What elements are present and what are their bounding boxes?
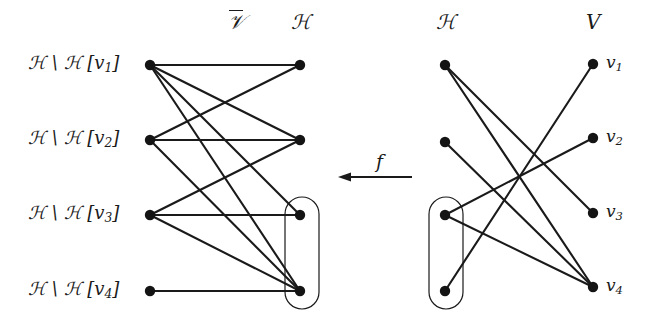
graph-node[interactable]: [588, 208, 598, 218]
graph-node[interactable]: [440, 60, 450, 70]
graph-node[interactable]: [295, 135, 305, 145]
graph-node[interactable]: [588, 282, 598, 292]
graph-edge: [445, 215, 593, 287]
graph-node[interactable]: [145, 210, 155, 220]
set-label-L3: ℋ \ ℋ [v3]: [28, 204, 119, 224]
header-right-graph-v: V: [586, 12, 600, 32]
set-label-L4: ℋ \ ℋ [v4]: [28, 280, 119, 300]
grouping-ovals-layer: [285, 197, 463, 309]
graph-node[interactable]: [145, 286, 155, 296]
mapping-arrow-label: f: [376, 152, 383, 171]
graph-node[interactable]: [440, 210, 450, 220]
graph-node[interactable]: [145, 135, 155, 145]
header-left-graph-vbar: 𝒱: [228, 12, 245, 32]
header-right-graph-h: ℋ: [436, 12, 456, 32]
graph-edge: [445, 65, 593, 213]
bipartite-graph-figure: 𝒱 ℋ ℋ V ℋ \ ℋ [v1]ℋ \ ℋ [v2]ℋ \ ℋ [v3]ℋ …: [0, 0, 662, 325]
graph-node[interactable]: [145, 60, 155, 70]
graph-edge: [150, 215, 300, 291]
graph-node[interactable]: [295, 210, 305, 220]
graph-node[interactable]: [295, 60, 305, 70]
graph-edge: [445, 142, 593, 287]
graph-node[interactable]: [295, 286, 305, 296]
graph-node[interactable]: [588, 133, 598, 143]
set-label-L1: ℋ \ ℋ [v1]: [28, 54, 119, 74]
graph-edge: [150, 140, 300, 215]
header-left-graph-h: ℋ: [291, 12, 311, 32]
graph-node[interactable]: [588, 59, 598, 69]
vertex-label-V3: v3: [606, 203, 623, 222]
vertex-label-V4: v4: [606, 277, 623, 296]
graph-node[interactable]: [440, 286, 450, 296]
mapping-arrow-layer: [338, 172, 412, 181]
graph-node[interactable]: [440, 137, 450, 147]
mapping-arrow-head: [338, 172, 351, 181]
vertex-label-V2: v2: [606, 128, 623, 147]
graph-canvas: [0, 0, 662, 325]
vertex-label-V1: v1: [606, 54, 623, 73]
set-label-L2: ℋ \ ℋ [v2]: [28, 129, 119, 149]
